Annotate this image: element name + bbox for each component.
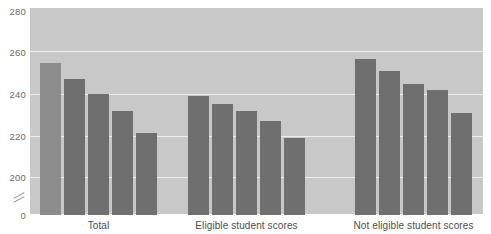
y-axis: 280 260 240 220 200 0 <box>0 0 30 234</box>
group-label-2: Not eligible student scores <box>304 221 491 231</box>
bar <box>236 111 257 215</box>
y-tick-label-200: 200 <box>10 173 26 183</box>
bar-chart: 280 260 240 220 200 0 TotalEligible stud… <box>0 0 491 234</box>
bar <box>379 71 400 215</box>
gridline-260 <box>30 51 483 52</box>
bar <box>112 111 133 215</box>
bar <box>451 113 472 215</box>
bar <box>427 90 448 215</box>
y-tick-label-260: 260 <box>10 48 26 58</box>
bar <box>212 104 233 215</box>
bar <box>88 94 109 215</box>
y-tick-label-0: 0 <box>21 211 26 221</box>
bar <box>403 84 424 215</box>
axis-break-icon <box>13 193 25 203</box>
bar <box>136 133 157 215</box>
y-tick-label-240: 240 <box>10 90 26 100</box>
bar <box>40 63 61 215</box>
plot-area <box>30 8 483 215</box>
bar <box>64 79 85 215</box>
bar <box>355 59 376 215</box>
bar <box>188 96 209 215</box>
bar <box>260 121 281 215</box>
bar <box>284 138 305 215</box>
y-tick-label-280: 280 <box>10 7 26 17</box>
y-tick-label-220: 220 <box>10 132 26 142</box>
